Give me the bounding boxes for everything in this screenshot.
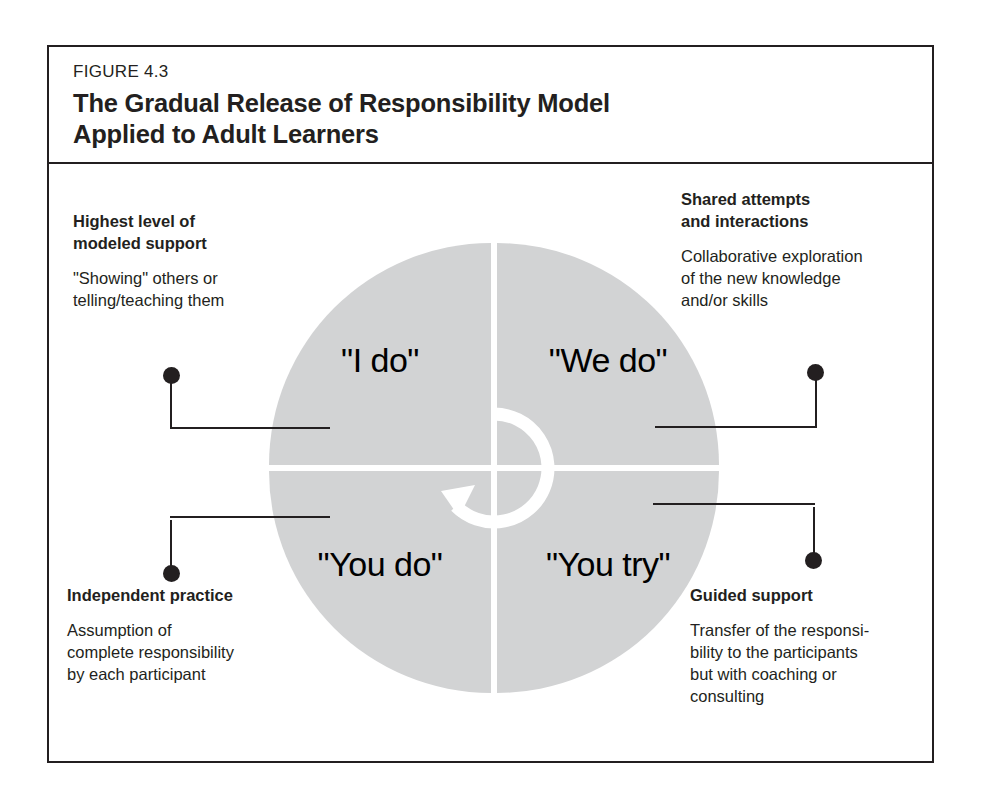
callout-body-line-1: Assumption of xyxy=(67,620,297,642)
callout-heading-line-1: Guided support xyxy=(690,585,926,607)
callout-body-line-2: of the new knowledge xyxy=(681,268,917,290)
figure-frame: FIGURE 4.3 The Gradual Release of Respon… xyxy=(47,45,934,763)
connector-segment-horizontal xyxy=(170,516,330,518)
connector-bottom-left xyxy=(163,516,333,582)
callout-body-line-3: but with coaching or xyxy=(690,664,926,686)
callout-shared-attempts-and-interactions: Shared attempts and interactions Collabo… xyxy=(681,189,917,312)
connector-segment-horizontal xyxy=(655,426,817,428)
figure-body: "I do" "We do" "You do" "You try" xyxy=(49,164,932,763)
connector-segment-vertical xyxy=(170,520,172,568)
figure-title-line-2: Applied to Adult Learners xyxy=(73,119,932,150)
connector-bottom-right xyxy=(652,503,822,569)
callout-body: Transfer of the responsi- bility to the … xyxy=(690,620,926,708)
connector-segment-vertical xyxy=(813,507,815,555)
callout-heading: Highest level of modeled support xyxy=(73,211,303,255)
callout-body-line-1: Transfer of the responsi- xyxy=(690,620,926,642)
figure-number: FIGURE 4.3 xyxy=(73,63,932,82)
callout-independent-practice: Independent practice Assumption of compl… xyxy=(67,585,297,686)
callout-body: Assumption of complete responsibility by… xyxy=(67,620,297,686)
callout-body-line-2: telling/teaching them xyxy=(73,290,303,312)
callout-body-line-3: and/or skills xyxy=(681,290,917,312)
callout-heading-line-1: Independent practice xyxy=(67,585,297,607)
figure-title: The Gradual Release of Responsibility Mo… xyxy=(73,88,932,150)
callout-highest-level-of-modeled-support: Highest level of modeled support "Showin… xyxy=(73,211,303,312)
callout-guided-support: Guided support Transfer of the responsi-… xyxy=(690,585,926,708)
callout-body-line-2: complete responsibility xyxy=(67,642,297,664)
callout-heading-line-1: Shared attempts xyxy=(681,189,917,211)
callout-body-line-1: "Showing" others or xyxy=(73,268,303,290)
callout-heading: Guided support xyxy=(690,585,926,607)
callout-body: Collaborative exploration of the new kno… xyxy=(681,246,917,312)
callout-heading-line-2: and interactions xyxy=(681,211,917,233)
figure-title-line-1: The Gradual Release of Responsibility Mo… xyxy=(73,88,932,119)
gradual-release-wheel: "I do" "We do" "You do" "You try" xyxy=(269,243,719,693)
callout-heading-line-1: Highest level of xyxy=(73,211,303,233)
connector-segment-horizontal xyxy=(170,427,330,429)
connector-segment-vertical xyxy=(170,381,172,429)
callout-body-line-3: by each participant xyxy=(67,664,297,686)
connector-segment-horizontal xyxy=(653,503,815,505)
callout-body-line-1: Collaborative exploration xyxy=(681,246,917,268)
callout-heading: Independent practice xyxy=(67,585,297,607)
callout-body-line-4: consulting xyxy=(690,686,926,708)
connector-segment-vertical xyxy=(815,378,817,428)
callout-heading: Shared attempts and interactions xyxy=(681,189,917,233)
connector-top-right xyxy=(654,364,824,430)
callout-heading-line-2: modeled support xyxy=(73,233,303,255)
callout-body-line-2: bility to the participants xyxy=(690,642,926,664)
callout-body: "Showing" others or telling/teaching the… xyxy=(73,268,303,312)
figure-header: FIGURE 4.3 The Gradual Release of Respon… xyxy=(49,47,932,164)
connector-top-left xyxy=(163,367,333,431)
